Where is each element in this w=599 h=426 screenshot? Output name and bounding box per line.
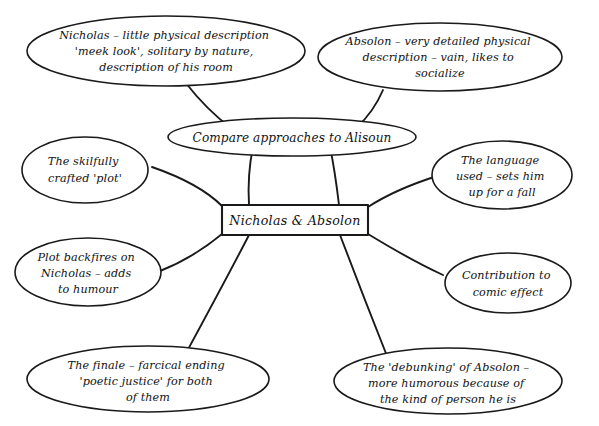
connector-comic-effect-to-central xyxy=(368,234,443,275)
node-the-finale[interactable]: The finale – farcical ending 'poetic jus… xyxy=(27,346,269,412)
node-plot-backfires[interactable]: Plot backfires on Nicholas – adds to hum… xyxy=(15,238,161,306)
node-skilfully-crafted-plot[interactable]: The skilfully crafted 'plot' xyxy=(22,137,148,203)
node-nicholas-description[interactable]: Nicholas – little physical description '… xyxy=(27,16,305,86)
connector-debunking-absolon-to-central xyxy=(340,235,387,356)
node-language-used[interactable]: The language used – sets him up for a fa… xyxy=(432,141,572,209)
connector-plot-backfires-to-central xyxy=(160,234,222,271)
node-debunking-absolon[interactable]: The 'debunking' of Absolon – more humoro… xyxy=(334,348,562,414)
node-debunking-absolon-label: The 'debunking' of Absolon – more humoro… xyxy=(363,361,533,406)
node-language-used-label: The language used – sets him up for a fa… xyxy=(456,154,548,199)
connector-skilfully-crafted-plot-to-central xyxy=(152,167,222,206)
node-central-nicholas-and-absolon[interactable]: Nicholas & Absolon xyxy=(222,205,368,235)
node-compare-approaches-label: Compare approaches to Alisoun xyxy=(193,131,392,145)
connector-language-used-to-central xyxy=(368,176,437,207)
node-central-label: Nicholas & Absolon xyxy=(228,213,360,228)
node-skilfully-crafted-plot-outline xyxy=(22,137,148,203)
node-absolon-description[interactable]: Absolon – very detailed physical descrip… xyxy=(318,23,562,91)
node-compare-approaches-to-alisoun[interactable]: Compare approaches to Alisoun xyxy=(168,118,416,156)
mind-map-diagram: Nicholas – little physical description '… xyxy=(0,0,599,426)
node-comic-effect[interactable]: Contribution to comic effect xyxy=(445,253,571,313)
node-comic-effect-outline xyxy=(445,253,571,313)
